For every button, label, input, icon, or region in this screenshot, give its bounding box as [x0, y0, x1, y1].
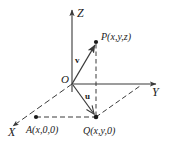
figure-3d-coordinate-system: Z Y X O P(x,y,z) Q(x,y,0) A(x,0,0) v u [0, 0, 171, 144]
point-a-label: A(x,0,0) [26, 125, 58, 135]
diagram-canvas [0, 0, 171, 144]
origin-label: O [61, 74, 69, 85]
vector-v-label: v [75, 56, 80, 65]
dashed-edge-q-to-yaxis [96, 86, 140, 117]
point-a-marker [34, 115, 38, 119]
axis-x-label: X [8, 126, 15, 138]
axis-y-label: Y [152, 86, 159, 98]
axis-x [13, 84, 72, 126]
point-p-marker [94, 40, 98, 44]
vector-u-label: u [85, 92, 90, 101]
point-q-label: Q(x,y,0) [83, 126, 115, 136]
point-q-marker [94, 115, 99, 120]
axis-z-label: Z [77, 7, 84, 19]
vector-u-arrow [73, 85, 94, 114]
point-p-label: P(x,y,z) [101, 32, 131, 42]
